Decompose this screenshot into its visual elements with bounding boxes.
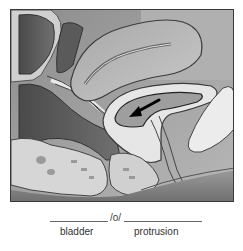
anatomy-illustration xyxy=(10,9,234,202)
blank-root-2 xyxy=(124,221,202,222)
medical-term-builder: /o/ xyxy=(0,212,243,224)
blank-root-1 xyxy=(50,221,108,222)
combining-vowel: /o/ xyxy=(110,212,121,223)
label-bladder: bladder xyxy=(60,226,93,237)
label-protrusion: protrusion xyxy=(134,226,178,237)
pelvis-cross-section xyxy=(11,10,234,202)
